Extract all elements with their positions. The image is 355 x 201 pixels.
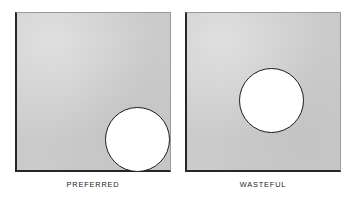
caption-preferred: PREFERRED xyxy=(21,180,165,190)
caption-wasteful: WASTEFUL xyxy=(191,180,335,190)
circular-blank-preferred xyxy=(105,107,170,172)
panel-wasteful xyxy=(185,12,341,172)
circular-blank-wasteful xyxy=(239,68,304,133)
panel-preferred xyxy=(15,12,171,172)
nesting-comparison-figure: PREFERRED WASTEFUL xyxy=(0,0,355,201)
